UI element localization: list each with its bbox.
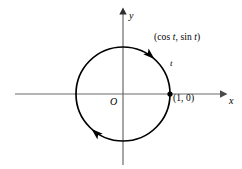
origin-label: O <box>110 97 117 107</box>
parametric-middle: , sin <box>175 32 194 42</box>
y-axis-label: y <box>129 11 133 21</box>
unit-circle-diagram <box>0 0 242 169</box>
parametric-suffix: ) <box>197 32 200 42</box>
x-axis <box>15 90 228 98</box>
parametric-prefix: (cos <box>154 32 173 42</box>
x-axis-label: x <box>229 96 233 106</box>
parameter-t-label: t <box>170 59 173 68</box>
figure-canvas: y x O (cos t, sin t) t (1, 0) <box>0 0 242 169</box>
unit-point-label: (1, 0) <box>173 94 194 104</box>
unit-point-marker <box>167 91 172 96</box>
parametric-point-label: (cos t, sin t) <box>154 33 200 43</box>
x-axis-arrowhead <box>220 90 228 98</box>
y-axis-arrowhead <box>119 8 126 15</box>
